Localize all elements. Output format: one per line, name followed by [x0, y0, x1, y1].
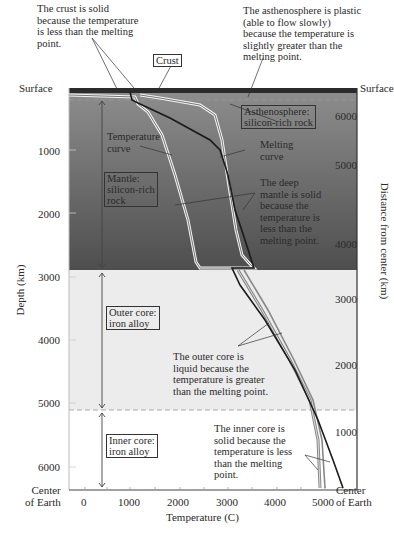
bottom-tick-5000: 5000	[312, 496, 334, 508]
left-tick-2000: 2000	[38, 208, 60, 220]
mantle-label: Mantle: silicon-rich rock	[104, 172, 158, 207]
bottom-tick-4000: 4000	[264, 496, 286, 508]
left-surface-label: Surface	[19, 82, 53, 94]
bottom-tick-1000: 1000	[118, 496, 140, 508]
bottom-tick-3000: 3000	[216, 496, 238, 508]
right-tick-3000: 3000	[335, 293, 357, 305]
left-tick-1000: 1000	[38, 145, 60, 157]
temperature-curve-label: Temperature curve	[107, 131, 160, 154]
left-tick-4000: 4000	[38, 334, 60, 346]
asthenosphere-annotation: The asthenosphere is plastic (able to fl…	[243, 5, 361, 63]
right-axis-title: Distance from center (km)	[379, 166, 391, 316]
deep-mantle-annotation: The deep mantle is solid because the tem…	[260, 177, 321, 246]
right-tick-5000: 5000	[335, 159, 357, 171]
bottom-axis-title: Temperature (C)	[166, 511, 239, 523]
right-center-label: Center of Earth	[336, 484, 372, 508]
bottom-tick-2000: 2000	[167, 496, 189, 508]
right-tick-6000: 6000	[335, 110, 357, 122]
outer-core-annotation: The outer core is liquid because the tem…	[173, 351, 268, 397]
crust-label: Crust	[153, 54, 182, 67]
outer-core-label: Outer core: iron alloy	[106, 306, 160, 330]
crust-annotation: The crust is solid because the temperatu…	[37, 3, 138, 49]
left-center-label: Center of Earth	[25, 484, 61, 508]
right-tick-2000: 2000	[335, 359, 357, 371]
left-tick-6000: 6000	[38, 461, 60, 473]
right-tick-1000: 1000	[335, 426, 357, 438]
inner-core-label: Inner core: iron alloy	[106, 434, 158, 458]
inner-core-annotation: The inner core is solid because the temp…	[214, 423, 292, 481]
left-tick-3000: 3000	[38, 271, 60, 283]
right-tick-4000: 4000	[335, 238, 357, 250]
melting-curve-label: Melting curve	[260, 139, 293, 162]
left-tick-5000: 5000	[38, 397, 60, 409]
right-surface-label: Surface	[360, 82, 394, 94]
left-axis-title: Depth (km)	[14, 250, 26, 330]
asthenosphere-label: Asthenosphere: silicon-rich rock	[241, 105, 316, 129]
bottom-tick-0: 0	[81, 496, 87, 508]
